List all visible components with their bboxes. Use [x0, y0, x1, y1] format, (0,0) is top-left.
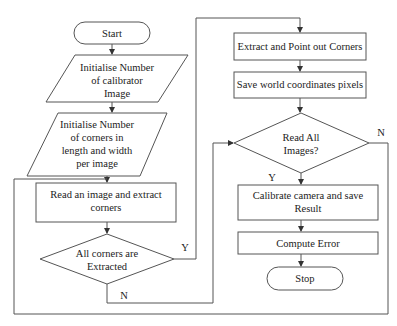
edge-label-read-all-yes: Y [268, 172, 276, 183]
node-init-images-line-3: Image [104, 88, 131, 99]
node-compute-error: Compute Error [238, 232, 378, 254]
node-read-all-line-2: Images? [284, 145, 319, 156]
decision-shape [234, 113, 369, 173]
node-read-all-line-1: Read All [282, 132, 319, 143]
edge-label-all-corners-yes: Y [181, 242, 189, 253]
node-init-images-line-2: of calibrator [91, 75, 143, 86]
node-init-corners-line-3: length and width [62, 145, 133, 156]
node-read-image-line-2: corners [91, 202, 122, 213]
node-save-world: Save world coordinates pixels [234, 72, 366, 98]
node-read-all-decision: Read All Images? [234, 113, 369, 173]
edge-label-read-all-no: N [377, 127, 385, 138]
node-all-corners-line-1: All corners are [76, 248, 139, 259]
node-all-corners-decision: All corners are Extracted [40, 234, 174, 284]
node-calibrate: Calibrate camera and save Result [238, 185, 378, 220]
node-start-label: Start [102, 28, 122, 39]
node-init-corners-line-2: of corners in [70, 132, 124, 143]
node-stop: Stop [267, 267, 343, 290]
edge-label-all-corners-no: N [120, 290, 128, 301]
node-stop-label: Stop [295, 273, 314, 284]
node-init-images: Initialise Number of calibrator Image [46, 55, 188, 102]
node-calibrate-line-2: Result [295, 203, 322, 214]
node-extract-corners-label: Extract and Point out Corners [238, 41, 363, 52]
node-read-image: Read an image and extract corners [36, 183, 176, 222]
flowchart-canvas: Start Initialise Number of calibrator Im… [0, 0, 397, 326]
decision-shape [40, 234, 174, 284]
node-save-world-label: Save world coordinates pixels [237, 79, 363, 90]
node-start: Start [74, 22, 150, 44]
node-all-corners-line-2: Extracted [87, 261, 128, 272]
node-init-images-line-1: Initialise Number [80, 62, 154, 73]
node-init-corners-line-1: Initialise Number [60, 119, 134, 130]
node-init-corners: Initialise Number of corners in length a… [27, 113, 167, 176]
node-calibrate-line-1: Calibrate camera and save [253, 190, 364, 201]
node-read-image-line-1: Read an image and extract [50, 189, 161, 200]
node-extract-corners: Extract and Point out Corners [234, 33, 366, 60]
node-compute-error-label: Compute Error [276, 238, 340, 249]
node-init-corners-line-4: per image [76, 158, 118, 169]
